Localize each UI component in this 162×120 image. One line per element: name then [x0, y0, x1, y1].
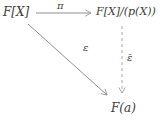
node-field-extension: F(a)	[111, 102, 136, 114]
node-polynomial-ring: F[X]	[3, 6, 29, 18]
label-epsilon-bar: ε̄	[127, 53, 132, 63]
commutative-diagram: F[X] F[X]/(p(X)) F(a) π ε ε̄	[0, 0, 162, 120]
label-pi: π	[57, 1, 64, 11]
label-epsilon: ε	[83, 43, 88, 53]
node-quotient-ring: F[X]/(p(X))	[96, 6, 156, 17]
arrow-epsilon	[28, 24, 107, 95]
